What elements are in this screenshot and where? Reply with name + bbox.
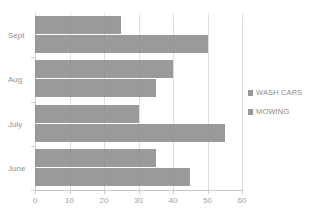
bar-wash-cars-june [35, 149, 156, 167]
legend-label: WASH CARS [256, 88, 303, 97]
gridline [208, 13, 209, 190]
bar-mowing-june [35, 168, 190, 186]
x-tick-label: 0 [33, 196, 37, 205]
x-tick-label: 60 [238, 196, 247, 205]
legend-swatch-icon [248, 90, 253, 96]
legend-swatch-icon [248, 109, 253, 115]
x-tick [173, 190, 174, 194]
bar-mowing-july [35, 124, 225, 142]
chart-title-cutoff [0, 0, 315, 3]
x-tick-label: 20 [100, 196, 109, 205]
bar-wash-cars-july [35, 105, 139, 123]
y-category-label: Sept [8, 31, 24, 40]
y-tick [31, 102, 35, 103]
x-tick [70, 190, 71, 194]
legend-label: MOWING [256, 107, 289, 116]
bar-mowing-aug [35, 79, 156, 97]
bar-wash-cars-sept [35, 16, 121, 34]
y-category-label: Aug [8, 75, 22, 84]
bar-mowing-sept [35, 35, 208, 53]
legend-item[interactable]: MOWING [248, 107, 314, 116]
x-tick [242, 190, 243, 194]
x-tick [208, 190, 209, 194]
x-tick-label: 40 [169, 196, 178, 205]
y-category-label: June [8, 163, 25, 172]
x-tick [139, 190, 140, 194]
y-tick [31, 146, 35, 147]
x-tick-label: 10 [65, 196, 74, 205]
legend-item[interactable]: WASH CARS [248, 88, 314, 97]
chart-legend: WASH CARSMOWING [248, 88, 314, 126]
gridline [242, 13, 243, 190]
x-tick [104, 190, 105, 194]
y-category-label: July [8, 119, 22, 128]
bar-wash-cars-aug [35, 60, 173, 78]
x-tick-label: 30 [134, 196, 143, 205]
y-tick [31, 190, 35, 191]
bar-chart: 0102030405060 SeptAugJulyJune WASH CARSM… [0, 0, 315, 220]
y-tick [31, 57, 35, 58]
x-tick-label: 50 [203, 196, 212, 205]
x-tick [35, 190, 36, 194]
